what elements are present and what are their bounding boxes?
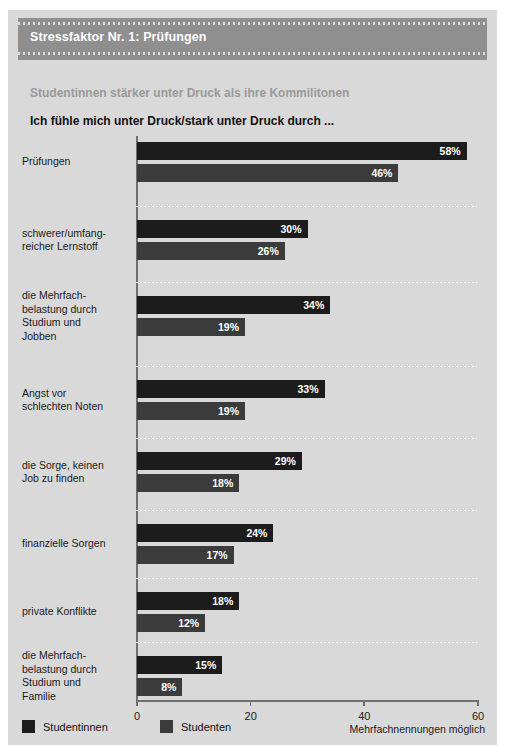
bar-value-label: 17%: [207, 549, 234, 561]
category-label-line: schlechten Noten: [22, 400, 134, 414]
category-label: die Mehrfach-belastung durchStudium undF…: [22, 649, 134, 703]
category-label-line: finanzielle Sorgen: [22, 537, 134, 551]
header-band: Stressfaktor Nr. 1: Prüfungen: [18, 18, 487, 60]
bar-studenten: 46%: [137, 164, 398, 182]
bar-studentinnen: 33%: [137, 380, 325, 398]
bar-studenten: 17%: [137, 546, 234, 564]
x-tick-mark: [363, 700, 365, 706]
category-label-line: die Mehrfach-: [22, 649, 134, 663]
chart-legend: Studentinnen Studenten Mehrfachnennungen…: [8, 720, 497, 742]
bar-value-label: 30%: [280, 223, 307, 235]
category-label: die Sorge, keinenJob zu finden: [22, 459, 134, 486]
legend-swatch-studenten: [160, 720, 173, 733]
header-dotted-rule-top: [18, 22, 487, 25]
legend-item-studentinnen: Studentinnen: [22, 720, 108, 733]
bar-value-label: 46%: [371, 167, 398, 179]
bar-group: die Mehrfach-belastung durchStudium undJ…: [8, 296, 497, 366]
bar-studentinnen: 30%: [137, 220, 308, 238]
bar-group: Prüfungen58%46%: [8, 142, 497, 212]
bar-value-label: 58%: [440, 145, 467, 157]
group-separator: [136, 578, 477, 579]
bar-chart-plot: Prüfungen58%46%schwerer/umfang-reicher L…: [8, 136, 497, 706]
group-separator: [136, 642, 477, 643]
group-separator: [136, 438, 477, 439]
category-label: schwerer/umfang-reicher Lernstoff: [22, 227, 134, 254]
category-label-line: Angst vor: [22, 387, 134, 401]
category-label: private Konflikte: [22, 605, 134, 619]
category-label: Prüfungen: [22, 155, 134, 169]
x-tick-mark: [477, 700, 479, 706]
bar-studentinnen: 58%: [137, 142, 467, 160]
bar-value-label: 8%: [161, 681, 182, 693]
bar-value-label: 29%: [275, 455, 302, 467]
bar-studenten: 19%: [137, 402, 245, 420]
category-label-line: belastung durch: [22, 663, 134, 677]
chart-question: Ich fühle mich unter Druck/stark unter D…: [30, 114, 334, 128]
group-separator: [136, 510, 477, 511]
category-label-line: Prüfungen: [22, 155, 134, 169]
category-label: Angst vorschlechten Noten: [22, 387, 134, 414]
legend-label-studentinnen: Studentinnen: [43, 721, 108, 733]
category-label-line: Job zu finden: [22, 472, 134, 486]
category-label-line: Studium und: [22, 316, 134, 330]
bar-studentinnen: 29%: [137, 452, 302, 470]
bar-value-label: 18%: [212, 595, 239, 607]
chart-subtitle: Studentinnen stärker unter Druck als ihr…: [30, 86, 349, 100]
bar-value-label: 15%: [195, 659, 222, 671]
bar-studenten: 12%: [137, 614, 205, 632]
bar-value-label: 34%: [303, 299, 330, 311]
bar-studentinnen: 24%: [137, 524, 273, 542]
bar-value-label: 18%: [212, 477, 239, 489]
chart-footnote: Mehrfachnennungen möglich: [350, 723, 485, 735]
legend-swatch-studentinnen: [22, 720, 35, 733]
group-separator: [136, 282, 477, 283]
page-title: Stressfaktor Nr. 1: Prüfungen: [30, 30, 207, 44]
category-label-line: schwerer/umfang-: [22, 227, 134, 241]
header-dotted-rule-bottom: [18, 52, 487, 55]
bar-studenten: 18%: [137, 474, 239, 492]
legend-item-studenten: Studenten: [160, 720, 231, 733]
bar-value-label: 19%: [218, 405, 245, 417]
bar-studenten: 19%: [137, 318, 245, 336]
legend-label-studenten: Studenten: [181, 721, 231, 733]
bar-studentinnen: 18%: [137, 592, 239, 610]
category-label-line: Familie: [22, 690, 134, 704]
group-separator: [136, 206, 477, 207]
bar-value-label: 12%: [178, 617, 205, 629]
bar-group: Angst vorschlechten Noten33%19%: [8, 380, 497, 450]
bar-studentinnen: 34%: [137, 296, 330, 314]
category-label-line: private Konflikte: [22, 605, 134, 619]
bar-studenten: 26%: [137, 242, 285, 260]
bar-value-label: 33%: [298, 383, 325, 395]
bar-group: finanzielle Sorgen24%17%: [8, 524, 497, 594]
bar-value-label: 19%: [218, 321, 245, 333]
category-label-line: Jobben: [22, 330, 134, 344]
x-tick-mark: [136, 700, 138, 706]
category-label-line: die Sorge, keinen: [22, 459, 134, 473]
bar-studenten: 8%: [137, 678, 182, 696]
bar-value-label: 24%: [246, 527, 273, 539]
bar-studentinnen: 15%: [137, 656, 222, 674]
bar-value-label: 26%: [258, 245, 285, 257]
x-tick-mark: [250, 700, 252, 706]
bar-group: schwerer/umfang-reicher Lernstoff30%26%: [8, 220, 497, 290]
category-label-line: belastung durch: [22, 303, 134, 317]
bar-group: die Sorge, keinenJob zu finden29%18%: [8, 452, 497, 522]
category-label-line: Studium und: [22, 676, 134, 690]
group-separator: [136, 366, 477, 367]
category-label: finanzielle Sorgen: [22, 537, 134, 551]
category-label-line: die Mehrfach-: [22, 289, 134, 303]
category-label: die Mehrfach-belastung durchStudium undJ…: [22, 289, 134, 343]
category-label-line: reicher Lernstoff: [22, 240, 134, 254]
chart-card: Stressfaktor Nr. 1: Prüfungen Studentinn…: [8, 10, 497, 745]
